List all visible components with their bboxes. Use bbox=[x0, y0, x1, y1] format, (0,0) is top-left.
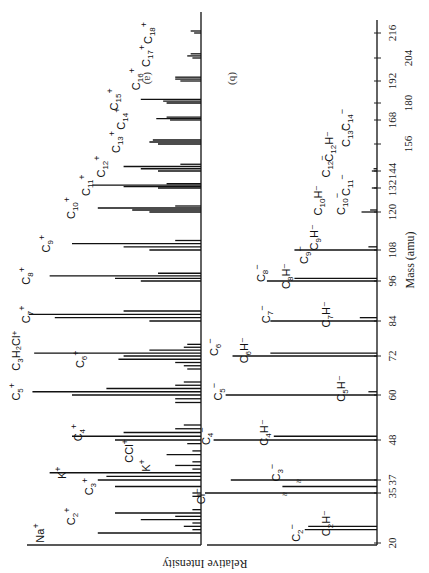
panel-b-ion-labels: C2−C2H⁻Cl−C3−C4−C4H⁻C5−C5H⁻C6−C6H⁻C7−C7H… bbox=[192, 109, 355, 542]
axis-break-icon: ≈ bbox=[297, 476, 302, 486]
ion-label-positive: K+ bbox=[137, 459, 152, 472]
ion-label-positive: C13+ bbox=[107, 131, 125, 153]
ion-label-positive: C12+ bbox=[92, 155, 110, 177]
ion-label-negative: C7H⁻ bbox=[320, 301, 335, 327]
ion-label-positive: K+ bbox=[53, 466, 68, 479]
tick-label: 168 bbox=[386, 111, 398, 128]
tick-label: 216 bbox=[386, 24, 398, 41]
panel-b-peaks: ≈≈ bbox=[205, 169, 377, 530]
tick-label: 120 bbox=[386, 203, 398, 220]
ion-label-positive: C17+ bbox=[137, 45, 155, 67]
ion-label-negative: C12H⁻ bbox=[323, 131, 338, 162]
panel-b-label: (b) bbox=[227, 72, 240, 85]
ion-label-positive: C10+ bbox=[62, 197, 80, 219]
ion-label-positive: C8+ bbox=[17, 267, 35, 285]
tick-label: 144 bbox=[386, 162, 398, 179]
x-axis-title: Mass (amu) bbox=[403, 232, 417, 289]
ion-label-positive: C18+ bbox=[139, 22, 157, 44]
ion-label-negative: Cl− bbox=[192, 489, 207, 505]
ion-label-positive: C16+ bbox=[127, 68, 145, 90]
ion-label-negative: C8− bbox=[252, 264, 270, 282]
ion-label-positive: C9+ bbox=[37, 235, 55, 253]
tick-label: 180 bbox=[402, 94, 414, 111]
ion-label-positive: C3H₂Cl⁺ bbox=[10, 330, 25, 371]
panel-a-ion-labels: Na+C2+C3+K+K+CCl+C4+C5+C3H₂Cl⁺C6+C7+C8+C… bbox=[7, 22, 157, 543]
tick-label: 132 bbox=[386, 180, 398, 197]
ion-label-positive: CCl+ bbox=[120, 439, 135, 463]
ion-label-negative: C9H⁻ bbox=[308, 224, 323, 250]
tick-label: 204 bbox=[402, 49, 414, 66]
tick-label: 84 bbox=[386, 315, 398, 327]
ion-label-negative: C4H⁻ bbox=[258, 419, 273, 445]
ion-label-negative: C5H⁻ bbox=[335, 375, 350, 401]
tick-label: 20 bbox=[386, 537, 398, 549]
tick-label: 35 bbox=[386, 487, 398, 499]
panel-a-label: (a) bbox=[142, 72, 155, 85]
ion-label-positive: C11+ bbox=[77, 174, 95, 196]
ion-label-negative: C2− bbox=[287, 524, 305, 542]
tick-label: 156 bbox=[402, 135, 414, 152]
ion-label-negative: C8H⁻ bbox=[280, 263, 295, 289]
ion-label-negative: C5− bbox=[209, 383, 227, 401]
axis-break-icon: ≈ bbox=[282, 489, 287, 499]
tick-label: 108 bbox=[386, 241, 398, 258]
y-axis-title: Relative Intensity bbox=[163, 557, 248, 571]
ion-label-negative: C11− bbox=[337, 174, 355, 196]
ion-label-positive: C2+ bbox=[62, 507, 80, 525]
ion-label-positive: Na+ bbox=[31, 523, 46, 542]
ion-label-positive: C3+ bbox=[80, 478, 98, 496]
ion-label-negative: C2H⁻ bbox=[320, 510, 335, 536]
ion-label-positive: C7+ bbox=[17, 305, 35, 323]
mass-spectrum-figure: 2035374860728496108120132144156168180192… bbox=[0, 0, 429, 573]
tick-label: 72 bbox=[386, 351, 398, 362]
tick-label: 48 bbox=[386, 434, 398, 446]
ion-label-negative: C6− bbox=[205, 338, 223, 356]
tick-label: 60 bbox=[386, 389, 398, 401]
ion-label-negative: C10H⁻ bbox=[312, 185, 327, 216]
ion-label-positive: C4+ bbox=[69, 424, 87, 442]
ion-label-negative: C6H⁻ bbox=[238, 337, 253, 363]
tick-label: 37 bbox=[386, 474, 398, 486]
tick-label: 96 bbox=[386, 275, 398, 287]
tick-label: 192 bbox=[386, 73, 398, 90]
ion-label-positive: C5+ bbox=[7, 383, 25, 401]
ion-label-negative: C3− bbox=[267, 464, 285, 482]
ion-label-positive: C15+ bbox=[105, 88, 123, 110]
ion-label-negative: C14− bbox=[337, 109, 355, 131]
